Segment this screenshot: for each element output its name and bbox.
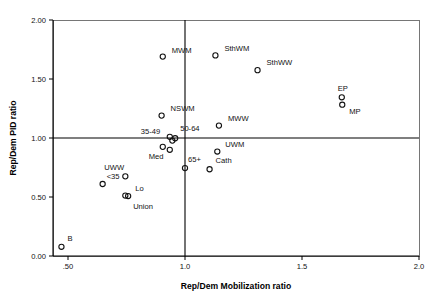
- data-point-label: MP: [349, 107, 360, 116]
- y-axis-title: Rep/Dem PID ratio: [8, 101, 18, 176]
- data-point-marker: [215, 149, 220, 154]
- data-point-label: SthWW: [267, 58, 294, 67]
- data-point-marker: [59, 244, 64, 249]
- y-axis-tick-label: 0.50: [31, 193, 46, 202]
- data-point-marker: [207, 167, 212, 172]
- data-point-label: UWW: [104, 163, 125, 172]
- data-point-marker: [100, 181, 105, 186]
- data-point-group: MWMSthWMSthWWEPMPNSWMMWW35-4950-64MedUWM…: [59, 44, 361, 249]
- data-point-marker: [159, 113, 164, 118]
- data-point-marker: [339, 95, 344, 100]
- data-point-marker: [160, 144, 165, 149]
- data-point-label: B: [67, 234, 72, 243]
- data-point-marker: [216, 123, 221, 128]
- data-point-label: NSWM: [171, 104, 195, 113]
- data-point-marker: [160, 54, 165, 59]
- data-point-label: UWM: [225, 140, 244, 149]
- scatter-plot-figure: 0.000.501.001.502.00.501.01.52.0MWMSthWM…: [0, 0, 438, 299]
- data-point-label: Lo: [135, 184, 143, 193]
- data-point-label: MWW: [228, 114, 249, 123]
- x-axis-tick-label: .50: [63, 262, 74, 271]
- data-point-label: 35-49: [141, 127, 160, 136]
- x-axis-tick-label: 2.0: [414, 262, 425, 271]
- x-axis-tick-label: 1.5: [297, 262, 308, 271]
- data-point-label: Cath: [216, 156, 232, 165]
- data-point-label: Med: [149, 152, 164, 161]
- x-axis-title: Rep/Dem Mobilization ratio: [181, 281, 291, 291]
- data-point-marker: [213, 53, 218, 58]
- data-point-marker: [340, 102, 345, 107]
- data-point-marker: [167, 147, 172, 152]
- y-axis-tick-label: 1.50: [31, 75, 46, 84]
- data-point-label: Union: [133, 202, 153, 211]
- data-point-marker: [123, 174, 128, 179]
- data-point-label: 65+: [188, 155, 201, 164]
- chart-canvas: 0.000.501.001.502.00.501.01.52.0MWMSthWM…: [0, 0, 438, 299]
- y-axis-tick-label: 2.00: [31, 16, 46, 25]
- y-axis-tick-label: 0.00: [31, 252, 46, 261]
- data-point-marker: [255, 68, 260, 73]
- data-point-label: MWM: [172, 46, 192, 55]
- y-axis-tick-label: 1.00: [31, 134, 46, 143]
- data-point-label: 50-64: [180, 124, 199, 133]
- data-point-label: EP: [338, 84, 348, 93]
- data-point-label: <35: [107, 172, 120, 181]
- data-point-label: SthWM: [224, 44, 249, 53]
- x-axis-tick-label: 1.0: [180, 262, 191, 271]
